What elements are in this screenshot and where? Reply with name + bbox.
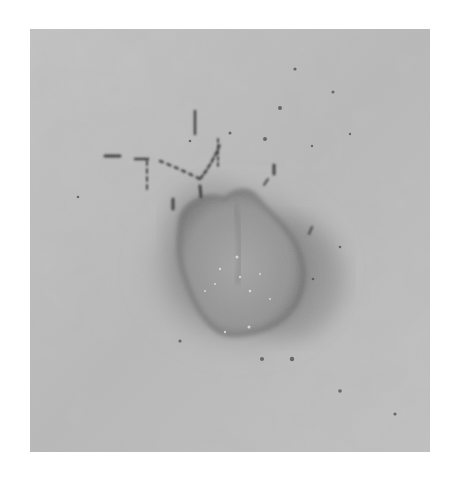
photo-canvas: [30, 29, 430, 452]
lesion-photo: [30, 29, 430, 452]
